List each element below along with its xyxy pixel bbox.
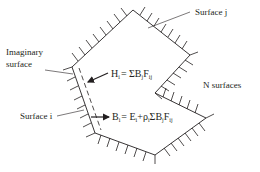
imaginary-surface-label-line2: surface: [6, 59, 32, 69]
radiosity-equation: Bi= Ei+ρiΣBjFij: [112, 111, 173, 123]
enclosure-outline: [72, 10, 206, 155]
surface-j-label: Surface j: [195, 7, 227, 17]
irradiation-arrow: [88, 73, 108, 82]
surface-i-leader: [57, 110, 84, 116]
imaginary-surface-label-line1: Imaginary: [6, 47, 43, 57]
irradiation-equation: Hi= ΣBjFij: [111, 68, 152, 80]
n-surfaces-label: N surfaces: [203, 80, 242, 90]
surface-i-label: Surface i: [20, 111, 53, 121]
surface-j-leader: [148, 12, 190, 28]
enclosure-diagram: Surface j Imaginary surface Surface i N …: [0, 0, 260, 172]
imaginary-surface-leader: [45, 70, 73, 74]
hatch-marks: [63, 7, 214, 164]
